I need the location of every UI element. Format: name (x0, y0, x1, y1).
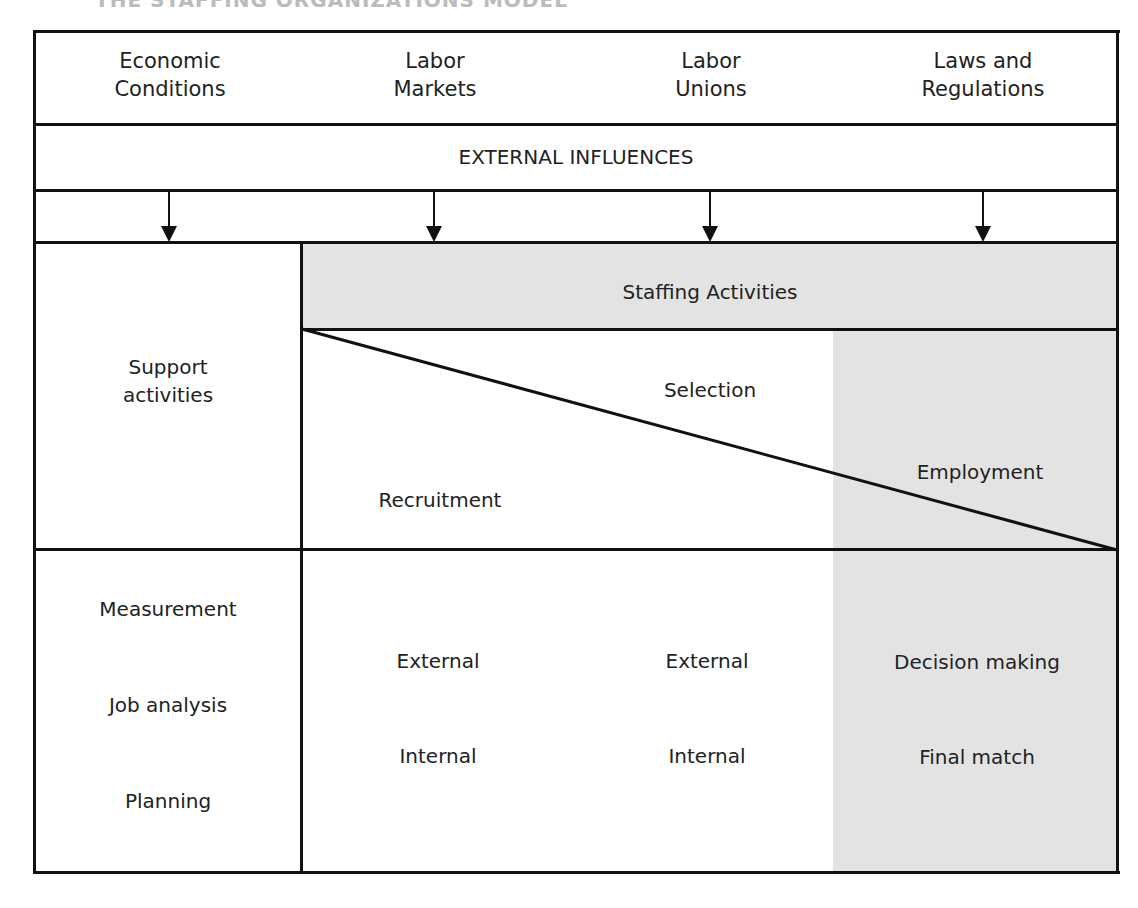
support-item-job-analysis: Job analysis (36, 691, 300, 719)
phase-employment: Employment (880, 458, 1080, 486)
arrow-shaft-4 (982, 191, 984, 227)
factor-economic-conditions: Economic Conditions (60, 47, 280, 103)
arrow-down-icon (702, 226, 718, 242)
arrow-shaft-3 (709, 191, 711, 227)
factor-laws-regulations: Laws and Regulations (873, 47, 1093, 103)
arrow-shaft-1 (168, 191, 170, 227)
arrow-down-icon (161, 226, 177, 242)
phase-diagonal (0, 0, 1138, 908)
factor-labor-markets: Labor Markets (325, 47, 545, 103)
support-item-measurement: Measurement (36, 595, 300, 623)
recruitment-item-external: External (358, 647, 518, 675)
staffing-activities-title: Staffing Activities (575, 278, 845, 306)
arrow-shaft-2 (433, 191, 435, 227)
recruitment-item-internal: Internal (358, 742, 518, 770)
arrow-down-icon (426, 226, 442, 242)
arrow-down-icon (975, 226, 991, 242)
support-activities-title: Support activities (36, 353, 300, 409)
support-item-planning: Planning (36, 787, 300, 815)
selection-item-external: External (627, 647, 787, 675)
phase-recruitment: Recruitment (345, 486, 535, 514)
employment-item-decision-making: Decision making (860, 648, 1094, 676)
phase-selection: Selection (620, 376, 800, 404)
factor-labor-unions: Labor Unions (601, 47, 821, 103)
external-influences-banner: EXTERNAL INFLUENCES (33, 143, 1119, 171)
selection-item-internal: Internal (627, 742, 787, 770)
employment-item-final-match: Final match (860, 743, 1094, 771)
